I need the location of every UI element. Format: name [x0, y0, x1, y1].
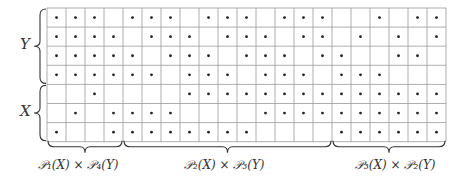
column-group-label-p2x-p3y: 𝒫₂(X) × 𝒫₃(Y): [184, 158, 265, 172]
column-group-label-p3x-p2y: 𝒫₃(X) × 𝒫₂(Y): [355, 158, 436, 172]
cell-dot: [169, 54, 172, 57]
cell-dot: [131, 16, 134, 19]
cell-dot: [378, 16, 381, 19]
cell-dot: [55, 131, 58, 134]
cell-dot: [131, 54, 134, 57]
cell-dot: [55, 16, 58, 19]
column-group-label-p1x-p4y: 𝒫₁(X) × 𝒫₄(Y): [38, 158, 119, 172]
cell-dot: [397, 35, 400, 38]
cell-dot: [226, 73, 229, 76]
cell-dot: [283, 54, 286, 57]
cell-dot: [340, 73, 343, 76]
cell-dot: [264, 73, 267, 76]
cell-dot: [321, 54, 324, 57]
cell-dot: [283, 93, 286, 96]
cell-dot: [283, 16, 286, 19]
cell-dot: [188, 54, 191, 57]
cell-dot: [302, 35, 305, 38]
cell-dot: [435, 112, 438, 115]
cell-dot: [188, 73, 191, 76]
cell-dot: [169, 112, 172, 115]
cell-dot: [302, 112, 305, 115]
cell-dot: [302, 73, 305, 76]
cell-dot: [207, 93, 210, 96]
cell-dot: [245, 54, 248, 57]
cell-dot: [416, 54, 419, 57]
cell-dot: [74, 54, 77, 57]
cell-dot: [188, 131, 191, 134]
cell-dot: [435, 16, 438, 19]
cell-dot: [416, 93, 419, 96]
cell-dot: [340, 54, 343, 57]
row-label-x: X: [20, 102, 31, 120]
cell-dot: [112, 54, 115, 57]
cell-dot: [188, 93, 191, 96]
row-brace-x: [34, 85, 46, 140]
cell-dot: [397, 93, 400, 96]
cell-dot: [245, 93, 248, 96]
cell-dot: [245, 16, 248, 19]
cell-dot: [207, 73, 210, 76]
cell-dot: [93, 35, 96, 38]
cell-dot: [416, 112, 419, 115]
subset-grid-diagram: Y X 𝒫₁(X) × 𝒫₄(Y) 𝒫₂(X) × 𝒫₃(Y) 𝒫₃(X) × …: [0, 0, 464, 179]
cell-dot: [321, 16, 324, 19]
cell-dot: [169, 35, 172, 38]
cell-dot: [169, 131, 172, 134]
cell-dot: [131, 112, 134, 115]
cell-dot: [150, 16, 153, 19]
cell-dot: [321, 35, 324, 38]
cell-dot: [302, 93, 305, 96]
cell-dot: [283, 73, 286, 76]
cell-dot: [264, 35, 267, 38]
cell-dot: [264, 93, 267, 96]
cell-dot: [416, 131, 419, 134]
cell-dot: [55, 73, 58, 76]
column-brace-2: [124, 141, 331, 153]
cell-dot: [378, 93, 381, 96]
cell-dot: [264, 54, 267, 57]
cell-dot: [150, 35, 153, 38]
cell-dot: [359, 131, 362, 134]
cell-dot: [359, 112, 362, 115]
cell-dot: [378, 112, 381, 115]
cell-dot: [264, 112, 267, 115]
cell-dot: [302, 16, 305, 19]
cell-dot: [359, 73, 362, 76]
cell-dot: [226, 16, 229, 19]
cell-dot: [112, 73, 115, 76]
cell-dot: [93, 54, 96, 57]
cell-dot: [150, 131, 153, 134]
cell-dot: [131, 131, 134, 134]
cell-dot: [397, 112, 400, 115]
cell-dot: [226, 35, 229, 38]
cell-dot: [435, 93, 438, 96]
cell-dot: [55, 35, 58, 38]
cell-dot: [112, 131, 115, 134]
cell-dot: [74, 73, 77, 76]
row-brace-y: [34, 9, 46, 83]
cell-dot: [321, 112, 324, 115]
cell-dot: [378, 131, 381, 134]
cell-dot: [321, 93, 324, 96]
cell-dot: [397, 54, 400, 57]
cell-dot: [226, 93, 229, 96]
cell-dot: [55, 54, 58, 57]
cell-dot: [435, 131, 438, 134]
cell-dot: [74, 35, 77, 38]
cell-dot: [74, 112, 77, 115]
cell-dot: [150, 112, 153, 115]
cell-dot: [283, 112, 286, 115]
cell-dot: [112, 112, 115, 115]
cell-dot: [93, 93, 96, 96]
cell-dot: [93, 73, 96, 76]
cell-dot: [378, 73, 381, 76]
row-label-y: Y: [20, 35, 30, 53]
cell-dot: [93, 16, 96, 19]
cell-dot: [245, 131, 248, 134]
cell-dot: [359, 93, 362, 96]
cell-dot: [112, 35, 115, 38]
cell-dot: [207, 16, 210, 19]
cell-dot: [340, 131, 343, 134]
cell-dot: [340, 112, 343, 115]
